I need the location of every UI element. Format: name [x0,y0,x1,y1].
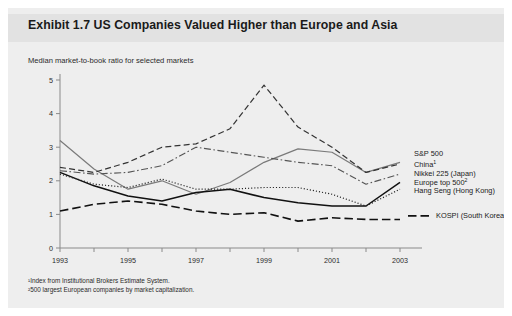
page-title: Exhibit 1.7 US Companies Valued Higher t… [28,18,488,32]
y-tick-label: 2 [49,176,53,185]
x-tick-label: 2001 [324,256,340,265]
legend-label: Nikkei 225 (Japan) [414,169,476,178]
x-tick-label: 1997 [188,256,204,265]
legend-item-4: Hang Seng (Hong Kong) [414,186,495,195]
axes [60,74,422,248]
footnote-1: ¹Index from Institutional Brokers Estima… [28,276,448,285]
y-tick-label: 0 [49,244,53,253]
x-tick-label: 1993 [52,256,68,265]
chart-subtitle: Median market-to-book ratio for selected… [28,56,193,65]
series-layer [60,85,400,221]
legend-label: China1 [414,159,436,169]
chart-area: 012345 199319951997199920012003 S&P 500C… [8,66,504,271]
y-tick-label: 5 [49,76,53,85]
series-line-5 [60,201,400,221]
y-tick-label: 4 [49,109,53,118]
axis-ticks [56,80,400,252]
footnotes: ¹Index from Institutional Brokers Estima… [28,276,448,294]
legend-item-5: KOSPI (South Korea) [408,211,504,220]
legend-item-3: Nikkei 225 (Japan) [414,169,476,178]
legend-item-1: China1 [414,159,436,169]
x-tick-label: 1999 [256,256,272,265]
series-line-1 [60,85,400,172]
footnote-2: ²500 largest European companies by marke… [28,285,448,294]
legend-item-0: S&P 500 [414,149,443,158]
legend-label: S&P 500 [414,149,443,158]
series-line-0 [60,140,400,194]
chart-legend: S&P 500China1Europe top 5002Nikkei 225 (… [408,149,504,220]
line-chart: 012345 199319951997199920012003 S&P 500C… [8,66,504,271]
exhibit-panel: Exhibit 1.7 US Companies Valued Higher t… [8,8,504,308]
y-axis-labels: 012345 [49,76,53,253]
legend-label: KOSPI (South Korea) [436,211,504,220]
x-tick-label: 1995 [120,256,136,265]
y-tick-label: 1 [49,210,53,219]
y-tick-label: 3 [49,143,53,152]
x-axis-labels: 199319951997199920012003 [52,256,408,265]
x-tick-label: 2003 [392,256,408,265]
legend-label: Hang Seng (Hong Kong) [414,186,495,195]
